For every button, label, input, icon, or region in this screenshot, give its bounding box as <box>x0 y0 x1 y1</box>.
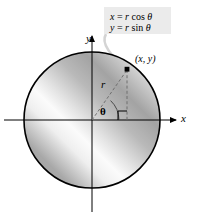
equation-y-equals: = <box>114 22 125 33</box>
point-label: (x, y) <box>135 54 156 64</box>
polar-coordinates-figure: y x r θ (x, y) x = r cos θ y = r sin θ <box>0 0 197 216</box>
equation-y-angle: θ <box>146 22 151 33</box>
radius-label: r <box>101 79 105 90</box>
equation-x-line: x = r cos θ <box>110 12 152 22</box>
theta-label: θ <box>100 106 106 117</box>
equation-y-function: sin <box>132 22 144 33</box>
equations-callout-box: x = r cos θ y = r sin θ <box>104 7 171 34</box>
equation-y-line: y = r sin θ <box>110 23 151 33</box>
y-axis-label: y <box>86 33 91 44</box>
equation-x-angle: θ <box>147 11 152 22</box>
equation-x-equals: = <box>114 11 125 22</box>
point-marker <box>125 67 130 72</box>
x-axis-label: x <box>181 113 186 124</box>
equation-x-function: cos <box>132 11 145 22</box>
